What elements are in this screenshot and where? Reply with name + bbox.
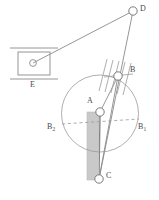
label-C: C <box>106 172 112 180</box>
label-B2-base: B <box>47 122 53 131</box>
label-E: E <box>30 81 35 89</box>
node-D <box>129 7 137 15</box>
link-E-D <box>33 11 133 63</box>
label-B1-subscript: 1 <box>144 126 147 132</box>
label-D: D <box>140 5 146 13</box>
label-B2: B2 <box>47 123 56 131</box>
label-A: A <box>87 97 93 105</box>
node-B <box>114 72 122 80</box>
link-B-C <box>99 76 118 179</box>
diagram-canvas <box>0 0 159 200</box>
ground-frame-E <box>10 48 58 79</box>
node-C <box>95 175 103 183</box>
linkage-diagram-figure: D B A C E B2 B1 <box>0 0 159 200</box>
node-A <box>96 108 104 116</box>
link-B-A <box>100 76 118 112</box>
label-B2-subscript: 2 <box>53 126 56 132</box>
linkage-links <box>33 11 133 179</box>
label-B: B <box>130 66 136 74</box>
label-B1-base: B <box>138 122 144 131</box>
label-B1: B1 <box>138 123 147 131</box>
